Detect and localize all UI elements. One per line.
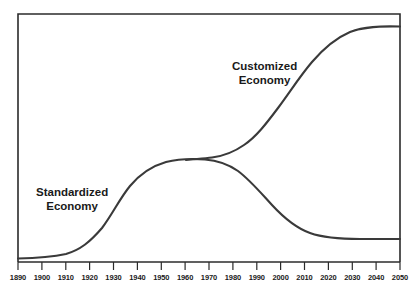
x-tick-label: 1930 [105, 273, 121, 282]
series-label-standardized-economy: Standardized Economy [36, 186, 108, 213]
x-tick-label: 2040 [368, 273, 384, 282]
x-tick-label: 1900 [34, 273, 50, 282]
x-tick-label: 1920 [81, 273, 97, 282]
x-tick-label: 1990 [249, 273, 265, 282]
x-tick-label: 2020 [320, 273, 336, 282]
x-tick-label: 1980 [225, 273, 241, 282]
x-tick-label: 1960 [177, 273, 193, 282]
series-label-customized-economy: Customized Economy [232, 60, 297, 87]
x-tick-label: 1970 [201, 273, 217, 282]
x-axis-ticks [18, 262, 400, 270]
plot-frame [18, 14, 400, 262]
series-line-customized-economy [186, 26, 400, 160]
x-tick-label: 2010 [296, 273, 312, 282]
x-tick-label: 1950 [153, 273, 169, 282]
series-label-customized-line2: Economy [232, 74, 297, 88]
series-label-standardized-line1: Standardized [36, 186, 108, 200]
x-tick-label: 1940 [129, 273, 145, 282]
chart-container: Customized Economy Standardized Economy … [0, 0, 417, 298]
x-tick-label: 2000 [272, 273, 288, 282]
x-tick-label: 2030 [344, 273, 360, 282]
x-tick-label: 2050 [392, 273, 408, 282]
chart-canvas [0, 0, 417, 298]
x-tick-label: 1890 [10, 273, 26, 282]
x-tick-label: 1910 [58, 273, 74, 282]
series-label-standardized-line2: Economy [36, 200, 108, 214]
series-label-customized-line1: Customized [232, 60, 297, 74]
